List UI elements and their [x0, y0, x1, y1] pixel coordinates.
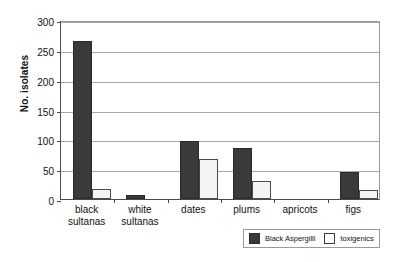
bar	[340, 172, 359, 199]
legend-swatch-icon	[324, 233, 335, 244]
bar	[180, 141, 199, 199]
gridline	[61, 171, 379, 172]
bar	[92, 189, 111, 199]
x-axis-tick-mark	[168, 199, 169, 203]
x-axis-tick-mark	[274, 199, 275, 203]
bar-chart: No. isolates 050100150200250300 blacksul…	[0, 0, 401, 262]
x-axis-label-line: dates	[167, 204, 220, 216]
bar	[199, 159, 218, 199]
gridline	[61, 52, 379, 53]
x-axis-label: apricots	[273, 204, 326, 216]
y-axis-tick-mark	[57, 171, 61, 172]
gridline	[61, 112, 379, 113]
legend-label: Black Aspergilli	[265, 234, 315, 243]
legend-item: Black Aspergilli	[249, 233, 315, 244]
x-axis-label-line: white	[113, 204, 166, 216]
y-axis-tick-mark	[57, 201, 61, 202]
legend-label: toxigenics	[340, 234, 373, 243]
y-axis-tick-mark	[57, 112, 61, 113]
x-axis-tick-mark	[114, 199, 115, 203]
x-axis-label: dates	[167, 204, 220, 216]
legend-swatch-icon	[249, 233, 260, 244]
bar	[233, 148, 252, 199]
x-axis-label-line: plums	[220, 204, 273, 216]
y-axis-tick-label: 200	[5, 76, 61, 87]
y-axis-tick-label: 50	[5, 166, 61, 177]
x-axis-tick-mark	[328, 199, 329, 203]
x-axis-label-line: apricots	[273, 204, 326, 216]
x-axis-label: blacksultanas	[60, 204, 113, 227]
gridline	[61, 82, 379, 83]
x-axis-label: whitesultanas	[113, 204, 166, 227]
gridline	[61, 141, 379, 142]
plot-area: 050100150200250300	[60, 21, 380, 200]
bar	[252, 181, 271, 199]
bar	[126, 195, 145, 199]
y-axis-tick-label: 300	[5, 17, 61, 28]
x-axis-label-line: sultanas	[60, 216, 113, 228]
y-axis-tick-label: 0	[5, 196, 61, 207]
bar	[359, 190, 378, 199]
x-axis-label-line: figs	[327, 204, 380, 216]
x-axis-label: plums	[220, 204, 273, 216]
y-axis-tick-label: 250	[5, 46, 61, 57]
y-axis-tick-mark	[57, 52, 61, 53]
y-axis-tick-label: 100	[5, 136, 61, 147]
x-axis-label-line: black	[60, 204, 113, 216]
bar	[73, 41, 92, 199]
x-axis-label: figs	[327, 204, 380, 216]
x-axis-label-line: sultanas	[113, 216, 166, 228]
x-axis-tick-mark	[221, 199, 222, 203]
chart-legend: Black Aspergillitoxigenics	[243, 229, 380, 248]
gridline	[61, 22, 379, 23]
y-axis-tick-label: 150	[5, 106, 61, 117]
y-axis-tick-mark	[57, 22, 61, 23]
y-axis-tick-mark	[57, 82, 61, 83]
legend-item: toxigenics	[324, 233, 373, 244]
y-axis-tick-mark	[57, 141, 61, 142]
